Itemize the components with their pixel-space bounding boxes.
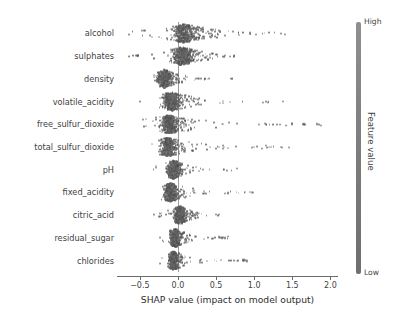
beeswarm-row [117,46,338,67]
beeswarm-point [161,119,163,121]
beeswarm-point [185,173,187,175]
beeswarm-point [196,60,198,62]
beeswarm-point [244,191,246,193]
beeswarm-point [201,37,203,39]
beeswarm-row [117,91,338,112]
beeswarm-point [170,200,172,202]
beeswarm-point [170,189,172,191]
beeswarm-point [159,107,161,109]
beeswarm-point [163,84,165,86]
beeswarm-point [177,198,179,200]
beeswarm-point [162,70,164,72]
x-tick-mark [178,276,179,280]
beeswarm-point [185,217,187,219]
beeswarm-outlier-point [262,101,264,103]
beeswarm-row [117,182,338,203]
beeswarm-point [176,94,178,96]
beeswarm-outlier-point [255,33,257,35]
beeswarm-point [222,148,224,150]
beeswarm-point [189,195,191,197]
beeswarm-outlier-point [258,123,260,125]
beeswarm-point [182,169,184,171]
x-axis-spine [117,276,338,277]
beeswarm-point [172,115,174,117]
beeswarm-point [175,166,177,168]
beeswarm-outlier-point [281,147,283,149]
beeswarm-point [177,130,179,132]
beeswarm-point [186,53,188,55]
beeswarm-point [182,186,184,188]
beeswarm-point [209,146,211,148]
beeswarm-point [174,105,176,107]
beeswarm-point [162,154,164,156]
beeswarm-point [151,54,153,56]
beeswarm-point [178,146,180,148]
beeswarm-point [212,237,214,239]
beeswarm-point [181,102,183,104]
beeswarm-row [117,68,338,89]
colorbar-title: Feature value [366,112,376,171]
beeswarm-point [183,232,185,234]
beeswarm-point [188,124,190,126]
beeswarm-point [175,58,177,60]
beeswarm-row [117,114,338,135]
beeswarm-point [164,93,166,95]
beeswarm-point [192,60,194,62]
colorbar-low-label: Low [364,268,379,277]
beeswarm-point [178,95,180,97]
beeswarm-point [183,221,185,223]
beeswarm-point [203,190,205,192]
beeswarm-point [219,102,221,104]
beeswarm-point [196,37,198,39]
beeswarm-point [192,54,194,56]
beeswarm-point [164,129,166,131]
beeswarm-point [203,238,205,240]
beeswarm-point [177,73,179,75]
beeswarm-point [170,49,172,51]
beeswarm-point [178,176,180,178]
beeswarm-point [180,206,182,208]
beeswarm-point [159,237,161,239]
beeswarm-point [272,124,274,126]
beeswarm-point [158,36,160,38]
beeswarm-point [163,241,165,243]
beeswarm-point [174,242,176,244]
beeswarm-point [169,147,171,149]
beeswarm-point [197,32,199,34]
beeswarm-point [185,242,187,244]
beeswarm-point [175,263,177,265]
beeswarm-outlier-point [224,192,226,194]
beeswarm-point [276,124,278,126]
beeswarm-point [170,80,172,82]
beeswarm-point [218,146,220,148]
beeswarm-point [159,262,161,264]
beeswarm-point [230,191,232,193]
beeswarm-point [167,120,169,122]
beeswarm-point [201,59,203,61]
beeswarm-point [198,104,200,106]
beeswarm-point [195,148,197,150]
beeswarm-outlier-point [316,123,318,125]
beeswarm-point [186,167,188,169]
beeswarm-point [186,192,188,194]
beeswarm-point [183,50,185,52]
beeswarm-point [154,125,156,127]
beeswarm-point [175,127,177,129]
beeswarm-point [186,211,188,213]
beeswarm-point [171,28,173,30]
beeswarm-point [157,122,159,124]
beeswarm-point [168,73,170,75]
beeswarm-point [186,76,188,78]
beeswarm-point [183,124,185,126]
beeswarm-point [236,122,238,124]
beeswarm-point [189,38,191,40]
beeswarm-point [191,122,193,124]
beeswarm-point [139,100,141,102]
beeswarm-point [167,78,169,80]
beeswarm-point [173,83,175,85]
beeswarm-point [205,32,207,34]
beeswarm-point [212,52,214,54]
beeswarm-point [216,260,218,262]
beeswarm-point [194,79,196,81]
beeswarm-point [185,125,187,127]
